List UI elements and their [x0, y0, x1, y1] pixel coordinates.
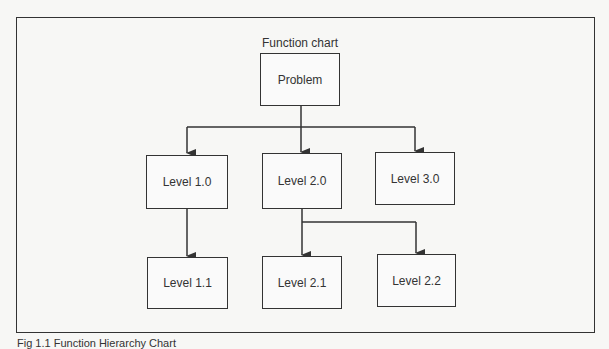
node-level-2-1: Level 2.1: [262, 256, 342, 309]
node-label: Level 3.0: [391, 172, 440, 186]
node-level-1-0: Level 1.0: [146, 155, 228, 209]
node-level-2-2: Level 2.2: [377, 254, 456, 307]
node-label: Level 1.0: [163, 175, 212, 189]
figure-caption: Fig 1.1 Function Hierarchy Chart: [17, 337, 176, 349]
node-level-2-0: Level 2.0: [262, 153, 342, 209]
node-label: Level 1.1: [163, 276, 212, 290]
node-level-3-0: Level 3.0: [375, 152, 455, 205]
node-level-1-1: Level 1.1: [147, 257, 228, 309]
node-label: Level 2.0: [278, 174, 327, 188]
node-label: Problem: [278, 73, 323, 87]
node-label: Level 2.1: [278, 276, 327, 290]
node-problem: Problem: [260, 53, 340, 106]
node-label: Level 2.2: [392, 274, 441, 288]
